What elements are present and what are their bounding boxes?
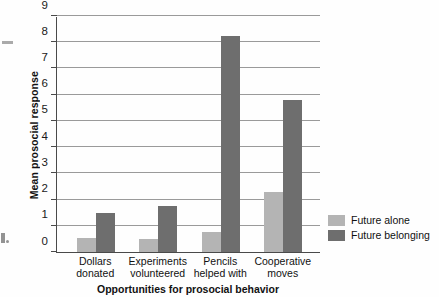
y-axis-tick-label: 5 [42,103,48,115]
y-axis-tick [51,15,57,16]
bar[interactable] [77,238,96,252]
x-axis-category-label-line: donated [64,267,126,279]
x-axis-title: Opportunities for prosocial behavior [56,283,320,295]
y-axis-tick-label: 0 [42,235,48,247]
y-axis-tick-label: 1 [42,208,48,220]
x-axis-category-label-line: moves [252,267,314,279]
bar-group [139,17,177,252]
bar[interactable] [264,192,283,252]
bar[interactable] [221,36,240,252]
plot-area: 0123456789 [56,17,320,253]
legend-swatch [328,230,345,241]
legend-swatch [328,215,345,226]
y-axis-title-text: Mean prosocial response [28,71,40,199]
page-scan-artifact-fragment [1,233,5,243]
legend: Future aloneFuture belonging [328,214,430,241]
figure-canvas: Mean prosocial response 0123456789 Dolla… [0,0,439,297]
legend-label: Future alone [351,214,410,226]
y-axis-tick-label: 9 [42,0,48,11]
x-axis-category-label-line: Dollars [64,255,126,267]
x-axis-category-label-line: helped with [189,267,251,279]
gridline [57,15,320,16]
y-axis-tick-label: 6 [42,77,48,89]
y-axis-tick-label: 8 [42,25,48,37]
x-axis-tick-labels: DollarsdonatedExperimentsvolunteeredPenc… [56,255,320,283]
bar[interactable] [139,239,158,252]
x-axis-category-label: Pencilshelped with [189,255,251,283]
bars-layer [57,17,320,252]
y-axis-tick-label: 4 [42,130,48,142]
bar[interactable] [283,100,302,252]
x-axis-category-label-line: Cooperative [252,255,314,267]
y-axis-tick-label: 2 [42,182,48,194]
x-axis-category-label: Cooperativemoves [252,255,314,283]
bar[interactable] [96,213,115,252]
x-axis-category-label-line: volunteered [127,267,189,279]
x-axis-category-label-line: Pencils [189,255,251,267]
bar-group [77,17,115,252]
legend-item[interactable]: Future belonging [328,229,430,241]
y-axis-tick-label: 3 [42,156,48,168]
page-scan-artifact-period [6,240,9,243]
legend-label: Future belonging [351,229,430,241]
bar-group [264,17,302,252]
x-axis-category-label: Dollarsdonated [64,255,126,283]
bar[interactable] [202,232,221,252]
page-scan-artifact-dash [2,41,13,44]
x-axis-category-label: Experimentsvolunteered [127,255,189,283]
bar-group [202,17,240,252]
bar[interactable] [158,206,177,252]
x-axis-category-label-line: Experiments [127,255,189,267]
y-axis-title: Mean prosocial response [27,17,41,253]
y-axis-tick-label: 7 [42,51,48,63]
legend-item[interactable]: Future alone [328,214,430,226]
